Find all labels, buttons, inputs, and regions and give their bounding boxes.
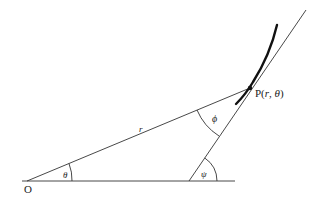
- point-p-prefix: P(: [255, 87, 265, 100]
- psi-angle-label: ψ: [201, 169, 207, 179]
- origin-label: O: [24, 183, 32, 195]
- point-p-marker: [248, 86, 252, 90]
- tangent-line: [189, 10, 306, 181]
- radius-label: r: [139, 124, 143, 134]
- point-p-suffix: ): [280, 87, 284, 100]
- theta-arc: [69, 164, 72, 182]
- theta-angle-label: θ: [63, 170, 68, 180]
- point-p-label: P(r, θ): [255, 87, 284, 100]
- polar-tangent-diagram: O r θ ψ ϕ P(r, θ): [0, 0, 312, 202]
- psi-arc: [205, 158, 217, 181]
- phi-angle-label: ϕ: [212, 113, 217, 124]
